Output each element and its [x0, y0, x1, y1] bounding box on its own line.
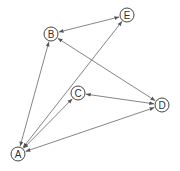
node-label: E: [124, 10, 131, 21]
edge-C-D: [86, 94, 154, 104]
edges-layer: [20, 17, 155, 151]
node-C: C: [71, 86, 85, 100]
node-label: C: [74, 88, 81, 99]
network-graph: ABCDE: [0, 0, 180, 171]
node-E: E: [120, 8, 134, 22]
node-B: B: [44, 27, 58, 41]
node-label: B: [48, 29, 55, 40]
nodes-layer: ABCDE: [11, 8, 169, 161]
edge-A-D: [26, 108, 155, 152]
edge-A-E: [23, 21, 122, 147]
node-label: A: [15, 149, 22, 160]
node-D: D: [155, 98, 169, 112]
node-A: A: [11, 147, 25, 161]
edge-B-E: [59, 17, 119, 32]
edge-A-B: [20, 42, 49, 147]
node-label: D: [158, 100, 165, 111]
